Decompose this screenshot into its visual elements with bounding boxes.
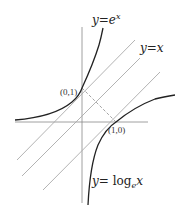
identity-line-label: y=x [139,41,164,55]
point-0-1-label: (0,1) [60,87,77,97]
log-curve-label: y= logex [91,174,143,190]
point-1-0-label: (1,0) [108,125,125,135]
exp-curve-label: y=ex [91,12,121,27]
reflection-dashed-segment [82,88,116,122]
inverse-function-diagram: y=ex y=x y= logex (0,1) (1,0) [0,0,185,219]
tangent-line-through-0-1 [17,40,135,160]
exp-curve [15,28,103,120]
